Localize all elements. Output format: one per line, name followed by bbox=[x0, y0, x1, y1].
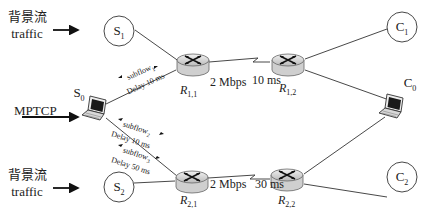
link-r12-c1 bbox=[305, 29, 387, 59]
node-label-c0: C0 bbox=[395, 76, 425, 93]
node-label-c1: C1 bbox=[387, 20, 417, 37]
label-zh: 背景流 bbox=[5, 10, 49, 23]
node-label-s1: S1 bbox=[104, 24, 134, 41]
router-label-r22: R2,2 bbox=[278, 194, 295, 209]
bottom-link-delay: 30 ms bbox=[255, 178, 284, 190]
label-zh: 背景流 bbox=[5, 168, 49, 181]
router-label-r11: R1,1 bbox=[180, 84, 197, 99]
mptcp-label: MPTCP bbox=[14, 104, 57, 117]
node-label-s2: S2 bbox=[104, 180, 134, 197]
router-r11-icon bbox=[177, 54, 209, 76]
link-s1-r11 bbox=[135, 30, 180, 62]
label-en: traffic bbox=[5, 27, 49, 40]
bottom-link-bandwidth: 2 Mbps bbox=[210, 178, 246, 190]
node-label-c2: C2 bbox=[387, 170, 417, 187]
router-label-r12: R1,2 bbox=[279, 82, 296, 97]
router-r21-icon bbox=[176, 171, 208, 193]
link-r22-c2 bbox=[304, 184, 387, 197]
top-link-bandwidth: 2 Mbps bbox=[210, 76, 246, 88]
label-en: traffic bbox=[5, 185, 49, 198]
node-label-s0: S0 bbox=[64, 86, 94, 103]
link-s2-r21 bbox=[134, 181, 175, 183]
top-link-delay: 10 ms bbox=[252, 74, 281, 86]
link-r12-c0 bbox=[305, 70, 392, 101]
background-traffic-label-s1: 背景流 traffic bbox=[5, 10, 49, 40]
link-r11-r12-serial bbox=[209, 58, 270, 62]
background-traffic-label-s2: 背景流 traffic bbox=[5, 168, 49, 198]
link-r22-c0 bbox=[304, 117, 385, 174]
router-label-r21: R2,1 bbox=[180, 194, 197, 209]
